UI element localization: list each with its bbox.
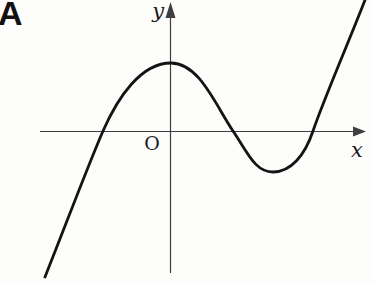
function-curve <box>45 0 365 277</box>
graph-canvas: A x y O <box>0 0 374 285</box>
panel-label: A <box>0 0 23 32</box>
y-axis-arrowhead-icon <box>166 2 176 18</box>
y-axis-label: y <box>151 0 165 23</box>
origin-label: O <box>144 132 160 154</box>
x-axis-label: x <box>351 138 363 162</box>
x-axis-arrowhead-icon <box>353 127 366 137</box>
function-graph-figure: A x y O <box>0 0 374 285</box>
